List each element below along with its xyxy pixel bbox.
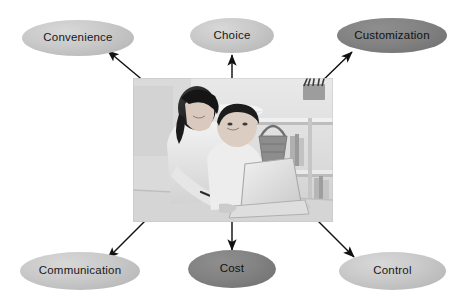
node-choice[interactable]: Choice [190, 18, 274, 53]
diagram-canvas: Convenience Choice Customization Communi… [0, 0, 457, 308]
arrow-to-control [318, 221, 354, 257]
node-control-label: Control [373, 265, 411, 277]
node-customization-label: Customization [354, 30, 429, 42]
node-cost-label: Cost [220, 263, 244, 275]
node-customization[interactable]: Customization [337, 18, 447, 53]
node-communication-label: Communication [39, 265, 122, 277]
node-choice-label: Choice [214, 30, 251, 42]
arrow-to-communication [108, 221, 145, 258]
node-convenience-label: Convenience [43, 32, 112, 44]
node-control[interactable]: Control [339, 252, 446, 290]
node-cost[interactable]: Cost [188, 250, 276, 288]
center-photo [133, 78, 333, 222]
node-communication[interactable]: Communication [20, 252, 140, 290]
center-photo-image [133, 78, 333, 222]
node-convenience[interactable]: Convenience [22, 20, 134, 56]
